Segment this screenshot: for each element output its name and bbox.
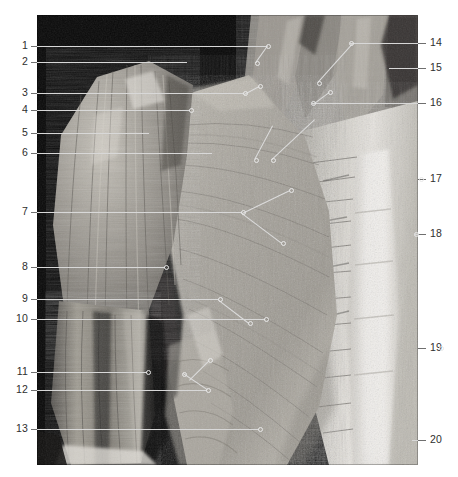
leader-endpoint-10 bbox=[264, 317, 269, 322]
anatomical-photograph bbox=[37, 15, 418, 465]
diagonal-endpoint-d5 bbox=[281, 241, 286, 246]
diagonal-endpoint-d9 bbox=[248, 321, 253, 326]
label-number-11: 11 bbox=[17, 366, 28, 376]
leader-outside-20 bbox=[418, 440, 426, 441]
label-number-4: 4 bbox=[22, 104, 28, 114]
label-number-14: 14 bbox=[430, 37, 442, 47]
leader-inside-10 bbox=[37, 319, 265, 320]
leader-outside-16 bbox=[418, 103, 426, 104]
leader-inside-15 bbox=[389, 68, 418, 69]
label-number-15: 15 bbox=[430, 62, 442, 72]
leader-endpoint-14 bbox=[349, 41, 354, 46]
leader-endpoint-9 bbox=[218, 297, 223, 302]
leader-inside-8 bbox=[37, 267, 165, 268]
leader-outside-14 bbox=[418, 43, 426, 44]
leader-endpoint-4 bbox=[189, 108, 194, 113]
leader-inside-5 bbox=[37, 133, 149, 134]
leader-outside-15 bbox=[418, 68, 426, 69]
diagonal-endpoint-d8 bbox=[271, 158, 276, 163]
label-number-17: 17 bbox=[430, 173, 442, 183]
leader-inside-6 bbox=[37, 153, 212, 154]
label-number-18: 18 bbox=[430, 228, 442, 238]
leader-endpoint-16 bbox=[311, 101, 316, 106]
label-number-3: 3 bbox=[22, 87, 28, 97]
label-number-16: 16 bbox=[430, 97, 442, 107]
leader-inside-11 bbox=[37, 372, 147, 373]
leader-endpoint-17 bbox=[419, 177, 424, 182]
label-number-7: 7 bbox=[22, 206, 28, 216]
label-number-9: 9 bbox=[22, 293, 28, 303]
label-number-20: 20 bbox=[430, 434, 442, 444]
diagonal-endpoint-d2 bbox=[317, 81, 322, 86]
leader-endpoint-1 bbox=[266, 44, 271, 49]
label-number-12: 12 bbox=[16, 384, 28, 394]
leader-inside-3 bbox=[37, 93, 244, 94]
leader-inside-7 bbox=[37, 212, 242, 213]
label-number-2: 2 bbox=[22, 56, 28, 66]
leader-endpoint-7 bbox=[241, 210, 246, 215]
diagonal-endpoint-d4 bbox=[258, 84, 263, 89]
label-number-8: 8 bbox=[22, 261, 28, 271]
diagonal-endpoint-d6 bbox=[289, 188, 294, 193]
leader-inside-9 bbox=[37, 299, 219, 300]
leader-endpoint-8 bbox=[164, 265, 169, 270]
label-number-10: 10 bbox=[16, 313, 28, 323]
label-number-1: 1 bbox=[22, 40, 28, 50]
leader-endpoint-3 bbox=[243, 91, 248, 96]
label-number-6: 6 bbox=[22, 147, 28, 157]
leader-endpoint-11 bbox=[146, 370, 151, 375]
leader-endpoint-18 bbox=[414, 232, 419, 237]
diagonal-endpoint-d7 bbox=[254, 158, 259, 163]
diagonal-endpoint-d3 bbox=[328, 90, 333, 95]
leader-inside-4 bbox=[37, 110, 190, 111]
leader-inside-2 bbox=[37, 62, 187, 63]
leader-inside-13 bbox=[37, 429, 259, 430]
leader-inside-12 bbox=[37, 390, 207, 391]
diagonal-endpoint-d10 bbox=[182, 372, 187, 377]
leader-endpoint-19 bbox=[439, 346, 444, 351]
label-number-5: 5 bbox=[22, 127, 28, 137]
anatomy-plate: 12345678910111213 14151617181920 bbox=[0, 0, 458, 477]
label-number-13: 13 bbox=[16, 423, 28, 433]
leader-endpoint-13 bbox=[258, 427, 263, 432]
leader-inside-20 bbox=[412, 440, 418, 441]
leader-outside-18 bbox=[418, 234, 426, 235]
leader-outside-19 bbox=[418, 348, 426, 349]
photo-canvas bbox=[37, 15, 418, 465]
diagonal-endpoint-d11 bbox=[208, 358, 213, 363]
leader-inside-16 bbox=[312, 103, 418, 104]
leader-endpoint-12 bbox=[206, 388, 211, 393]
diagonal-endpoint-d1 bbox=[255, 61, 260, 66]
leader-inside-1 bbox=[37, 46, 267, 47]
leader-inside-14 bbox=[350, 43, 418, 44]
